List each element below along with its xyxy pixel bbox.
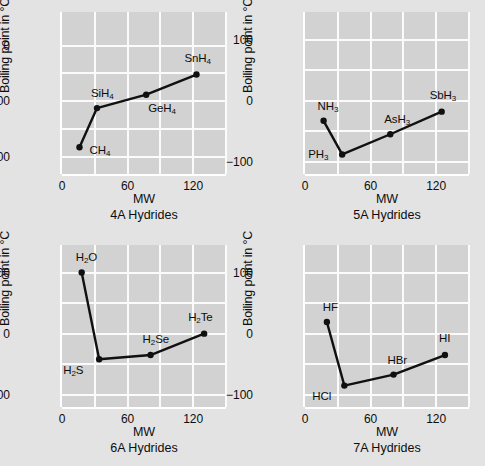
data-point [339, 151, 345, 157]
x-axis-label: MW [305, 426, 469, 439]
point-label: H2O [76, 252, 97, 264]
x-axis-line [305, 174, 469, 176]
point-label: GeH4 [148, 103, 176, 115]
point-label: CH4 [89, 145, 110, 157]
y-tick-label: 0 [246, 95, 253, 107]
y-axis-label: Boiling point in °C [241, 0, 255, 93]
y-tick-label: −100 [0, 95, 10, 107]
y-tick-label: −100 [0, 389, 10, 401]
y-axis-label: Boiling point in °C [241, 231, 255, 326]
x-axis-line [305, 407, 469, 409]
x-tick-label: 0 [302, 180, 309, 192]
point-label: NH3 [318, 101, 339, 113]
point-label: SnH4 [184, 53, 210, 65]
data-point [96, 356, 102, 362]
data-point [76, 144, 82, 150]
point-label: HCl [312, 391, 331, 403]
chart-panel-1: CH4SiH4GeH4SnH40−100−200060120Boiling po… [0, 0, 242, 233]
x-tick-label: 0 [59, 413, 66, 425]
data-point [341, 382, 347, 388]
data-point [390, 371, 396, 377]
panel-subtitle: 6A Hydrides [62, 442, 226, 455]
series-plot [62, 12, 226, 174]
point-label: H2Se [143, 334, 169, 346]
chart-panel-2: NH3PH3AsH3SbH31000−100060120Boiling poin… [243, 0, 485, 233]
y-tick-label: −100 [226, 156, 253, 168]
data-point [201, 330, 207, 336]
data-point [193, 71, 199, 77]
point-label: PH3 [308, 149, 328, 161]
y-tick-label: −100 [226, 389, 253, 401]
data-point [147, 352, 153, 358]
point-label: AsH3 [384, 114, 410, 126]
x-tick-label: 60 [121, 413, 134, 425]
data-point [78, 269, 84, 275]
data-point [442, 352, 448, 358]
x-tick-label: 120 [183, 180, 203, 192]
data-point [438, 108, 444, 114]
data-point [324, 319, 330, 325]
point-label: H2S [63, 365, 83, 377]
y-axis-label: Boiling point in °C [0, 0, 12, 93]
x-axis-line [62, 174, 226, 176]
data-point [387, 131, 393, 137]
chart-panel-4: HFHClHBrHI1000−100060120Boiling point in… [243, 233, 485, 466]
x-tick-label: 0 [302, 413, 309, 425]
y-tick-label: 0 [3, 328, 10, 340]
panel-subtitle: 5A Hydrides [305, 209, 469, 222]
x-axis-label: MW [305, 193, 469, 206]
x-tick-label: 60 [121, 180, 134, 192]
plot-area: HFHClHBrHI [305, 245, 469, 407]
plot-area: H2OH2SH2SeH2Te [62, 245, 226, 407]
data-point [94, 105, 100, 111]
series-plot [62, 245, 226, 407]
point-label: SbH3 [430, 90, 456, 102]
x-tick-label: 120 [183, 413, 203, 425]
point-label: SiH4 [91, 88, 114, 100]
x-tick-label: 60 [364, 180, 377, 192]
point-label: H2Te [188, 312, 213, 324]
hydride-boiling-point-figure: CH4SiH4GeH4SnH40−100−200060120Boiling po… [0, 0, 485, 466]
y-tick-label: −200 [0, 151, 10, 163]
x-tick-label: 0 [59, 180, 66, 192]
panel-subtitle: 7A Hydrides [305, 442, 469, 455]
plot-area: NH3PH3AsH3SbH3 [305, 12, 469, 174]
point-label: HI [439, 333, 450, 345]
x-axis-label: MW [62, 426, 226, 439]
x-tick-label: 60 [364, 413, 377, 425]
point-label: HBr [388, 355, 408, 367]
x-tick-label: 120 [426, 180, 446, 192]
plot-area: CH4SiH4GeH4SnH4 [62, 12, 226, 174]
panel-subtitle: 4A Hydrides [62, 209, 226, 222]
point-label: HF [323, 302, 338, 314]
chart-panel-3: H2OH2SH2SeH2Te1000−100060120Boiling poin… [0, 233, 242, 466]
x-axis-line [62, 407, 226, 409]
x-tick-label: 120 [426, 413, 446, 425]
y-tick-label: 0 [246, 328, 253, 340]
data-point [143, 91, 149, 97]
x-axis-label: MW [62, 193, 226, 206]
y-axis-label: Boiling point in °C [0, 231, 12, 326]
series-plot [305, 245, 469, 407]
data-point [320, 118, 326, 124]
